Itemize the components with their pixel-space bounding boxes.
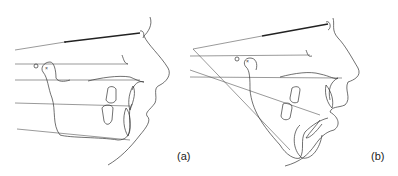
soft-tissue-profile: [285, 18, 359, 166]
molar-upper: [290, 87, 300, 103]
reference-line-3: [15, 103, 130, 106]
orbit-mark: [122, 55, 128, 64]
molar-lower: [281, 103, 292, 120]
porion-marker: [235, 57, 239, 61]
palate: [88, 76, 144, 90]
reference-line-4: [17, 129, 130, 140]
incisor-lower: [124, 108, 130, 136]
incisor-upper: [129, 86, 135, 110]
soft-tissue-profile: [108, 17, 169, 165]
panel-label-a: (a): [177, 150, 190, 162]
diagram-canvas: × (a) × (b): [0, 0, 398, 176]
reference-line-sn: [193, 36, 262, 49]
condyle: [250, 58, 257, 70]
molar-upper: [106, 87, 116, 103]
reference-line-sn-thick: [65, 33, 140, 42]
panel-b: ×: [190, 18, 359, 166]
reference-line-sn-thick: [262, 24, 328, 36]
reference-line-fh: [190, 55, 310, 56]
nasion-curve: [326, 22, 330, 30]
reference-point: [64, 41, 66, 43]
condyle: [50, 62, 70, 81]
panel-a: ×: [15, 17, 169, 165]
condylion-marker: ×: [45, 65, 48, 71]
nasion-curve: [140, 31, 144, 38]
porion-marker: [34, 64, 38, 68]
reference-line-sn: [15, 42, 65, 50]
molar-lower: [102, 105, 113, 124]
palate: [280, 73, 338, 100]
panel-label-b: (b): [371, 150, 384, 162]
reference-line-occlusal: [190, 70, 320, 115]
